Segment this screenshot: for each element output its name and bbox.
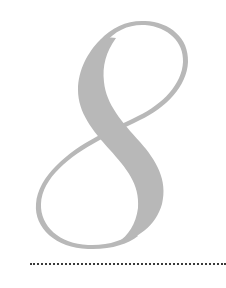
- numeral-eight-icon: [0, 0, 226, 288]
- dotted-divider: [30, 263, 226, 265]
- decorative-numeral-eight: 8: [0, 0, 226, 288]
